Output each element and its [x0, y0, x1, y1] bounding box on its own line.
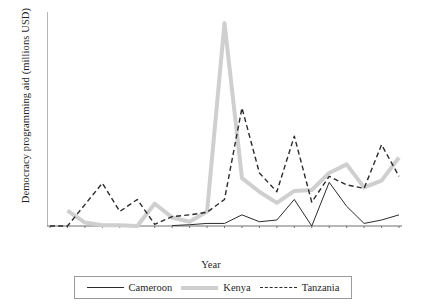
chart-legend: Cameroon Kenya Tanzania	[74, 276, 352, 299]
chart-figure: Democracy programming aid (millions USD)…	[0, 0, 422, 305]
legend-label-kenya: Kenya	[223, 282, 250, 293]
solid-line-swatch	[87, 287, 124, 288]
thick-band-swatch	[181, 286, 218, 290]
legend-label-tanzania: Tanzania	[302, 282, 340, 293]
plot-area: 050100150200250 199019911992199319941995…	[47, 12, 402, 228]
x-axis-label: Year	[0, 259, 422, 270]
series-line-kenya	[67, 23, 399, 226]
dashed-line-swatch	[260, 287, 297, 288]
legend-item-kenya: Kenya	[181, 282, 250, 293]
legend-item-tanzania: Tanzania	[260, 282, 340, 293]
legend-label-cameroon: Cameroon	[129, 282, 173, 293]
data-series-group	[50, 23, 399, 226]
legend-item-cameroon: Cameroon	[87, 282, 173, 293]
chart-svg: 050100150200250 199019911992199319941995…	[47, 12, 402, 228]
y-axis-label: Democracy programming aid (millions USD)	[20, 0, 31, 216]
